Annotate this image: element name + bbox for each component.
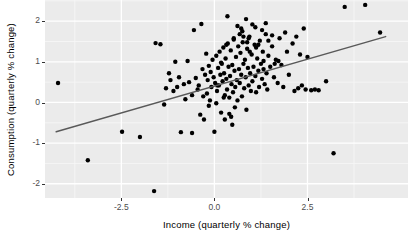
data-point — [250, 79, 254, 83]
data-point — [232, 69, 236, 73]
data-point — [246, 83, 250, 87]
data-point — [173, 60, 177, 64]
data-point — [233, 85, 237, 89]
data-point — [138, 135, 142, 139]
data-point — [283, 30, 287, 34]
data-point — [222, 71, 226, 75]
y-axis-tick-labels: -2-1012 — [16, 0, 40, 199]
data-point — [215, 89, 219, 93]
data-point — [254, 90, 258, 94]
data-point — [292, 89, 296, 93]
data-point — [187, 80, 191, 84]
data-point — [244, 17, 248, 21]
data-point — [248, 49, 252, 53]
data-point — [238, 81, 242, 85]
data-point — [167, 71, 171, 75]
data-point — [205, 91, 209, 95]
data-point — [86, 158, 90, 162]
data-point — [261, 59, 265, 63]
data-point — [343, 5, 347, 9]
data-point — [179, 130, 183, 134]
data-point — [198, 112, 202, 116]
data-point — [223, 56, 227, 60]
data-point — [303, 87, 307, 91]
data-point — [331, 151, 335, 155]
data-point — [277, 36, 281, 40]
x-axis-tick-marks — [0, 198, 414, 202]
data-point — [182, 82, 186, 86]
data-point — [285, 49, 289, 53]
data-point — [234, 55, 238, 59]
data-point — [257, 85, 261, 89]
data-point — [202, 117, 206, 121]
data-point — [229, 48, 233, 52]
y-tick-label: -1 — [20, 138, 40, 147]
data-point — [298, 52, 302, 56]
data-point — [171, 89, 175, 93]
data-point — [270, 33, 274, 37]
data-point — [56, 81, 60, 85]
data-point — [210, 58, 214, 62]
data-point — [246, 36, 250, 40]
data-point — [244, 108, 248, 112]
data-point — [158, 42, 162, 46]
data-point — [204, 51, 208, 55]
data-point — [223, 117, 227, 121]
data-point — [197, 83, 201, 87]
data-point — [239, 26, 243, 30]
data-point — [276, 59, 280, 63]
data-point — [203, 73, 207, 77]
data-point — [238, 51, 242, 55]
data-point — [287, 73, 291, 77]
data-point — [290, 41, 294, 45]
data-point — [275, 81, 279, 85]
data-point — [214, 54, 218, 58]
data-point — [227, 112, 231, 116]
data-point — [265, 87, 269, 91]
scatter-points — [56, 3, 382, 194]
y-tick-label: 0 — [20, 98, 40, 107]
data-point — [164, 86, 168, 90]
data-point — [294, 34, 298, 38]
data-point — [225, 14, 229, 18]
x-axis-title: Income (quarterly % change) — [45, 219, 408, 230]
data-point — [229, 82, 233, 86]
data-point — [270, 44, 274, 48]
data-point — [273, 62, 277, 66]
plot-canvas — [45, 0, 408, 198]
x-tick-mark — [308, 198, 309, 201]
data-point — [309, 88, 313, 92]
data-point — [183, 97, 187, 101]
data-point — [194, 76, 198, 80]
data-point — [242, 86, 246, 90]
data-point — [236, 44, 240, 48]
data-point — [222, 95, 226, 99]
data-point — [250, 22, 254, 26]
data-point — [177, 75, 181, 79]
data-point — [238, 32, 242, 36]
data-point — [300, 83, 304, 87]
data-point — [324, 79, 328, 83]
data-point — [224, 77, 228, 81]
data-point — [255, 56, 259, 60]
data-point — [231, 90, 235, 94]
data-point — [261, 49, 265, 53]
data-point — [251, 64, 255, 68]
data-point — [243, 58, 247, 62]
x-axis-tick-labels: -2.50.02.5 — [0, 203, 414, 215]
plot-panel — [45, 0, 408, 198]
x-tick-mark — [121, 198, 122, 201]
data-point — [206, 78, 210, 82]
data-point — [175, 85, 179, 89]
data-point — [216, 66, 220, 70]
data-point — [316, 88, 320, 92]
minor-gridlines — [45, 0, 408, 198]
data-point — [239, 73, 243, 77]
data-point — [268, 64, 272, 68]
data-point — [190, 131, 194, 135]
data-point — [241, 62, 245, 66]
data-point — [235, 24, 239, 28]
data-point — [207, 64, 211, 68]
data-point — [258, 38, 262, 42]
data-point — [233, 105, 237, 109]
